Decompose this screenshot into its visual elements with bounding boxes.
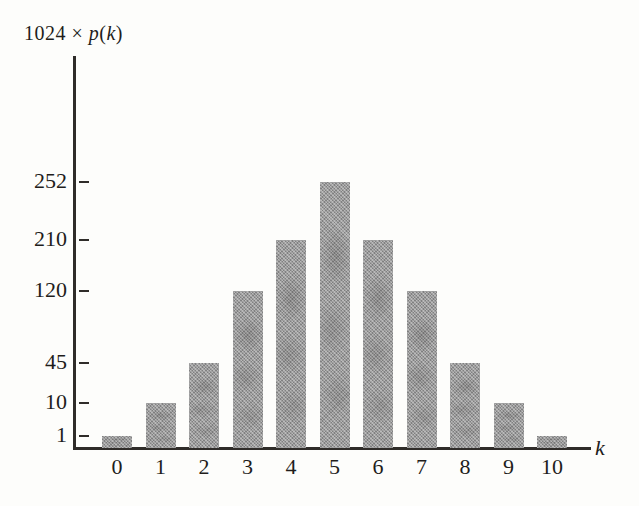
y-axis-title-part: ) [116, 22, 123, 44]
x-axis-variable-label: k [595, 437, 605, 459]
y-tick-45 [79, 362, 89, 364]
bar-k9 [494, 403, 524, 448]
bar-k0 [102, 436, 132, 448]
figure-canvas: 1024 × p(k) 11045120210252 012345678910 … [0, 0, 639, 506]
y-tick-label-10: 10 [0, 391, 67, 413]
y-axis-title-part: × [72, 22, 89, 44]
x-tick-label-0: 0 [95, 456, 139, 478]
y-axis-title-part: p [89, 22, 100, 44]
y-tick-252 [79, 181, 89, 183]
y-tick-label-45: 45 [0, 351, 67, 373]
x-tick-label-4: 4 [269, 456, 313, 478]
y-axis-title: 1024 × p(k) [24, 22, 123, 45]
x-tick-label-9: 9 [487, 456, 531, 478]
bar-k2 [189, 363, 219, 448]
x-tick-label-3: 3 [226, 456, 270, 478]
y-tick-label-120: 120 [0, 279, 67, 301]
bar-k10 [537, 436, 567, 448]
x-tick-label-8: 8 [443, 456, 487, 478]
y-axis-title-part: 1024 [24, 22, 72, 44]
x-tick-label-1: 1 [139, 456, 183, 478]
x-tick-label-5: 5 [313, 456, 357, 478]
y-tick-label-1: 1 [0, 424, 67, 446]
x-tick-label-6: 6 [356, 456, 400, 478]
bar-k4 [276, 240, 306, 448]
y-axis-title-part: k [106, 22, 115, 44]
y-axis-line [73, 56, 76, 449]
y-tick-1 [79, 435, 89, 437]
x-tick-label-7: 7 [400, 456, 444, 478]
y-tick-label-210: 210 [0, 228, 67, 250]
y-tick-210 [79, 239, 89, 241]
bar-k1 [146, 403, 176, 448]
x-tick-label-2: 2 [182, 456, 226, 478]
bar-k8 [450, 363, 480, 448]
bar-k5 [320, 182, 350, 448]
bar-k7 [407, 291, 437, 448]
y-tick-10 [79, 402, 89, 404]
bar-k3 [233, 291, 263, 448]
x-tick-label-10: 10 [530, 456, 574, 478]
y-tick-label-252: 252 [0, 170, 67, 192]
y-tick-120 [79, 290, 89, 292]
bar-k6 [363, 240, 393, 448]
